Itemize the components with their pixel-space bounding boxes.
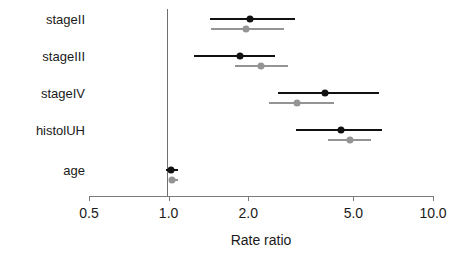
forest-plot: stageII stageIII stageIV histolUH age 0.… <box>0 0 459 253</box>
estimate-point <box>294 100 301 107</box>
x-axis-title: Rate ratio <box>231 232 292 248</box>
row-label-stageII: stageII <box>46 12 85 27</box>
row-label-stageIII: stageIII <box>42 49 85 64</box>
x-tick <box>433 196 434 201</box>
x-tick <box>169 196 170 201</box>
x-tick <box>89 196 90 201</box>
estimate-point <box>347 137 354 144</box>
row-label-stageIV: stageIV <box>41 86 85 101</box>
estimate-point <box>322 90 329 97</box>
confidence-interval-bar <box>269 102 334 104</box>
estimate-point <box>168 177 175 184</box>
estimate-point <box>246 16 253 23</box>
x-tick <box>248 196 249 201</box>
estimate-point <box>167 167 174 174</box>
x-tick-label: 10.0 <box>419 205 446 221</box>
x-tick-label: 5.0 <box>344 205 363 221</box>
x-tick-label: 1.0 <box>159 205 178 221</box>
x-tick <box>353 196 354 201</box>
row-label-histolUH: histolUH <box>36 123 85 138</box>
estimate-point <box>242 26 249 33</box>
confidence-interval-bar <box>194 55 275 57</box>
estimate-point <box>236 53 243 60</box>
row-label-age: age <box>63 163 85 178</box>
estimate-point <box>257 63 264 70</box>
x-tick-label: 0.5 <box>79 205 98 221</box>
x-tick-label: 2.0 <box>238 205 257 221</box>
x-axis-line <box>89 196 433 197</box>
estimate-point <box>337 127 344 134</box>
